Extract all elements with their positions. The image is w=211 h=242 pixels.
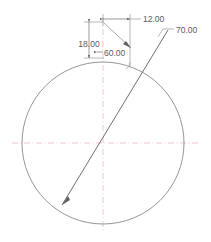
dim70-leader-hook [158, 29, 163, 37]
cad-drawing-canvas[interactable]: 12.00 18.00 60.00 70.00 [0, 0, 211, 242]
dimension-12[interactable]: 12.00 [103, 14, 165, 66]
dim60-label: 60.00 [104, 48, 126, 58]
drawing-svg: 12.00 18.00 60.00 70.00 [0, 0, 211, 242]
dim70-label: 70.00 [176, 25, 198, 35]
dimension-18[interactable]: 18.00 [78, 22, 104, 58]
dim12-label: 12.00 [143, 14, 165, 24]
dimension-70[interactable]: 70.00 [158, 25, 198, 37]
dim18-label: 18.00 [78, 39, 100, 49]
chord-lower-arrowhead [62, 196, 70, 205]
